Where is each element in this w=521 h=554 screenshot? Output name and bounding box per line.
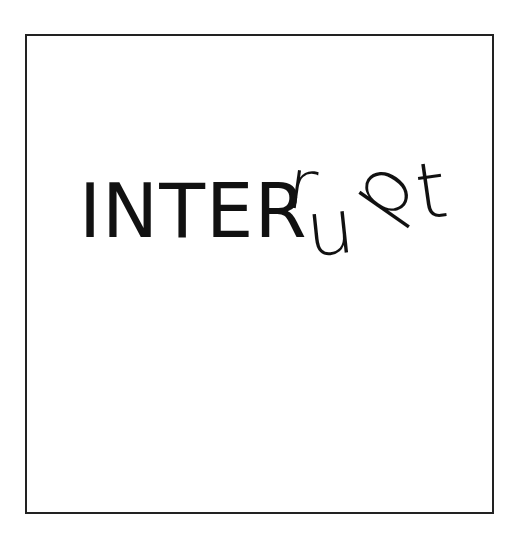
scattered-letter-u: u	[302, 188, 358, 269]
artwork-frame	[25, 34, 494, 514]
word-inter: INTER	[79, 174, 308, 249]
